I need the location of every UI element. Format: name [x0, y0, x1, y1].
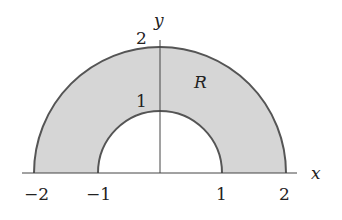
x-axis-label: x [311, 163, 321, 183]
x-tick-2: 2 [279, 184, 290, 204]
x-tick-neg1: −1 [86, 184, 111, 204]
x-tick-1: 1 [216, 184, 227, 204]
half-annulus-diagram: x y −2 −1 1 2 1 2 R [0, 0, 342, 220]
region-label: R [193, 72, 207, 92]
y-axis-label: y [153, 10, 164, 30]
y-tick-1: 1 [136, 91, 147, 111]
x-tick-neg2: −2 [24, 184, 49, 204]
y-tick-2: 2 [136, 28, 147, 48]
